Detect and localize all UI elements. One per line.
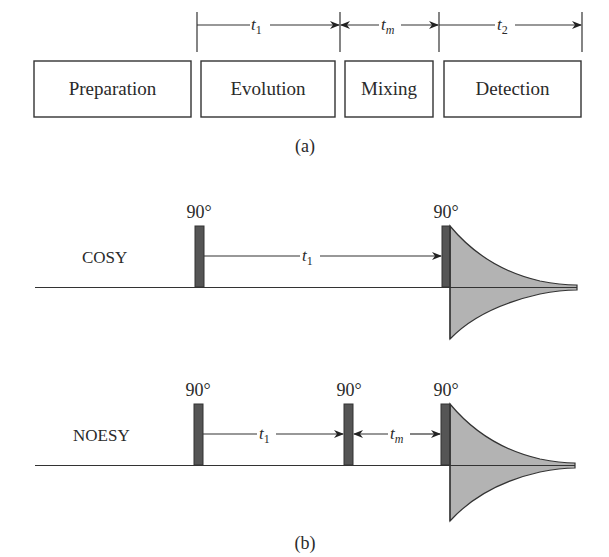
box-label-mixing: Mixing — [361, 78, 417, 99]
box-mixing: Mixing — [345, 61, 433, 117]
box-preparation: Preparation — [34, 61, 191, 117]
pulse-angle-label: 90° — [186, 202, 211, 222]
box-evolution: Evolution — [201, 61, 335, 117]
pulse-90-icon — [195, 226, 204, 287]
box-label-evolution: Evolution — [231, 78, 306, 99]
delay-label-tm: tm — [390, 424, 404, 446]
panel-b: COSY 90° 90° t1 NOESY — [35, 202, 577, 554]
delay-arrow-t1: t1 — [204, 246, 441, 268]
caption-b: (b) — [295, 533, 316, 554]
fid-signal-icon — [450, 226, 577, 339]
pulse-angle-label: 90° — [336, 380, 361, 400]
t2-label: t2 — [497, 15, 508, 37]
delay-arrow-t1: t1 — [203, 424, 343, 446]
sequence-cosy: COSY 90° 90° t1 — [35, 202, 577, 339]
box-label-detection: Detection — [476, 78, 550, 99]
box-label-preparation: Preparation — [69, 78, 157, 99]
pulse-angle-label: 90° — [433, 202, 458, 222]
pulse-90-icon — [194, 404, 203, 465]
nmr-pulse-diagram: t1 tm t2 Preparation Evolution Mixing — [0, 0, 609, 557]
t1-label: t1 — [251, 15, 262, 37]
sequence-label-cosy: COSY — [82, 248, 127, 267]
box-detection: Detection — [444, 61, 581, 117]
tm-label: tm — [381, 15, 395, 37]
delay-arrow-tm: tm — [354, 424, 440, 446]
timing-arrow-t2: t2 — [439, 15, 581, 37]
pulse-angle-label: 90° — [185, 380, 210, 400]
pulse-90-icon — [442, 226, 450, 287]
pulse-90-icon — [441, 404, 450, 465]
panel-a: t1 tm t2 Preparation Evolution Mixing — [34, 12, 582, 157]
caption-a: (a) — [295, 136, 315, 157]
timing-arrow-t1: t1 — [197, 15, 339, 37]
fid-signal-icon — [450, 404, 575, 521]
timing-arrow-tm: tm — [341, 15, 438, 37]
pulse-angle-label: 90° — [433, 380, 458, 400]
pulse-90-icon — [344, 404, 353, 465]
sequence-label-noesy: NOESY — [73, 426, 130, 445]
delay-label-t1: t1 — [259, 424, 270, 446]
delay-label-t1: t1 — [302, 246, 313, 268]
sequence-noesy: NOESY 90° 90° 90° t1 tm — [35, 380, 575, 521]
